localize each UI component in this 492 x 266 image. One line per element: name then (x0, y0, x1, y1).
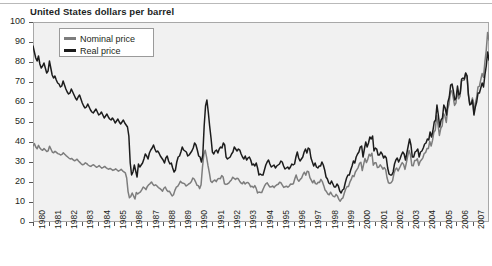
x-axis-label: 1985 (118, 210, 128, 229)
y-axis-label: 40 (1, 136, 25, 146)
x-axis-tick (228, 222, 229, 226)
x-axis-label: 2004 (427, 210, 437, 229)
x-axis-tick (277, 222, 278, 226)
x-axis-tick (147, 222, 148, 226)
legend-swatch-icon (64, 37, 76, 40)
x-axis-tick (82, 222, 83, 226)
x-axis-label: 2000 (362, 210, 372, 229)
x-axis-label: 1993 (248, 210, 258, 229)
x-axis-tick (131, 222, 132, 226)
y-axis-label: 70 (1, 76, 25, 86)
y-axis-tick (29, 202, 33, 203)
x-axis-label: 1983 (85, 210, 95, 229)
y-axis-tick (29, 142, 33, 143)
x-axis-tick (408, 222, 409, 226)
y-axis-label: 50 (1, 116, 25, 126)
x-axis-label: 2007 (476, 210, 486, 229)
x-axis-label: 1990 (199, 210, 209, 229)
y-axis-label: 90 (1, 36, 25, 46)
x-axis-tick (294, 222, 295, 226)
x-axis-label: 1981 (53, 210, 63, 229)
x-axis-tick (440, 222, 441, 226)
series-line-nominal-price (33, 32, 489, 201)
x-axis-tick (49, 222, 50, 226)
legend-item: Real price (64, 44, 121, 57)
x-axis-tick (473, 222, 474, 226)
page-title: United States dollars per barrel (30, 6, 174, 17)
x-axis-tick (66, 222, 67, 226)
y-axis-label: 10 (1, 196, 25, 206)
x-axis-tick (163, 222, 164, 226)
x-axis-label: 1997 (313, 210, 323, 229)
y-axis-tick (29, 182, 33, 183)
y-axis-label: 80 (1, 56, 25, 66)
x-axis-label: 1994 (265, 210, 275, 229)
x-axis-tick (196, 222, 197, 226)
legend-swatch-icon (64, 49, 76, 52)
x-axis-label: 1986 (134, 210, 144, 229)
x-axis-label: 2001 (379, 210, 389, 229)
oil-price-chart: United States dollars per barrel 0102030… (0, 0, 492, 266)
x-axis-label: 1998 (330, 210, 340, 229)
y-axis-label: 0 (1, 216, 25, 226)
x-axis-label: 2005 (444, 210, 454, 229)
y-axis-tick (29, 162, 33, 163)
legend-label: Nominal price (80, 34, 135, 44)
x-axis-label: 2002 (395, 210, 405, 229)
x-axis-tick (375, 222, 376, 226)
x-axis-tick (342, 222, 343, 226)
x-axis-tick (359, 222, 360, 226)
y-axis-tick (29, 102, 33, 103)
x-axis-label: 1988 (167, 210, 177, 229)
y-axis-label: 20 (1, 176, 25, 186)
series-line-real-price (33, 46, 489, 193)
chart-legend: Nominal priceReal price (59, 28, 154, 57)
x-axis-label: 1991 (216, 210, 226, 229)
x-axis-tick (180, 222, 181, 226)
y-axis-tick (29, 62, 33, 63)
x-axis-tick (456, 222, 457, 226)
x-axis-tick (261, 222, 262, 226)
x-axis-label: 1982 (69, 210, 79, 229)
y-axis-tick (29, 42, 33, 43)
x-axis-tick (326, 222, 327, 226)
x-axis-tick (33, 222, 34, 226)
x-axis-label: 1984 (102, 210, 112, 229)
legend-label: Real price (80, 46, 121, 56)
x-axis-label: 1987 (151, 210, 161, 229)
x-axis-tick (114, 222, 115, 226)
x-axis-tick (212, 222, 213, 226)
x-axis-label: 2006 (460, 210, 470, 229)
x-axis-label: 1980 (37, 210, 47, 229)
x-axis-label: 2003 (411, 210, 421, 229)
x-axis-tick (98, 222, 99, 226)
x-axis-tick (310, 222, 311, 226)
x-axis-label: 1995 (281, 210, 291, 229)
x-axis-tick (245, 222, 246, 226)
y-axis-tick (29, 82, 33, 83)
x-axis-tick (391, 222, 392, 226)
x-axis-label: 1992 (232, 210, 242, 229)
x-axis-label: 1989 (183, 210, 193, 229)
x-axis-label: 1996 (297, 210, 307, 229)
x-axis-tick (424, 222, 425, 226)
x-axis-label: 1999 (346, 210, 356, 229)
y-axis-tick (29, 22, 33, 23)
y-axis-label: 100 (1, 16, 25, 26)
y-axis-tick (29, 122, 33, 123)
y-axis-label: 30 (1, 156, 25, 166)
y-axis-label: 60 (1, 96, 25, 106)
